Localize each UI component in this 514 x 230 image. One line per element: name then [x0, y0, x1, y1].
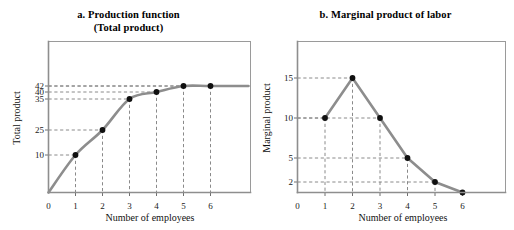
x-tick-label: 2: [350, 201, 355, 211]
y-tick-label: 42: [35, 81, 44, 91]
y-axis-title-b: Marginal product: [261, 83, 272, 153]
tick-marks-b: [294, 78, 463, 196]
y-tick-label: 15: [284, 73, 294, 83]
y-tick-labels-b: 251015: [284, 73, 294, 187]
x-tick-label: 0: [46, 201, 51, 211]
data-point-marker: [127, 96, 133, 102]
y-tick-label: 5: [289, 153, 294, 163]
data-point-marker: [154, 89, 160, 95]
tick-marks-a: [45, 86, 211, 196]
x-tick-label: 3: [378, 201, 383, 211]
chart-panel-production-function: a. Production function (Total product) 1…: [0, 0, 257, 230]
data-point-marker: [181, 83, 187, 89]
data-point-marker: [405, 155, 411, 161]
data-point-marker: [432, 179, 438, 185]
x-tick-label: 1: [73, 201, 78, 211]
guide-lines-b: [298, 78, 436, 193]
marginal-product-curve: [325, 78, 463, 193]
y-tick-label: 10: [284, 113, 294, 123]
x-tick-label: 4: [154, 201, 159, 211]
marginal-product-plot: 251015 0123456 Number of employees Margi…: [257, 0, 514, 230]
x-tick-labels-b: 0123456: [295, 201, 465, 211]
chart-panel-marginal-product: b. Marginal product of labor 251015 0123…: [257, 0, 514, 230]
x-tick-label: 4: [405, 201, 410, 211]
x-tick-label: 5: [181, 201, 186, 211]
x-tick-label: 0: [295, 201, 300, 211]
y-tick-labels-a: 1025354042: [35, 81, 45, 160]
guide-lines-a: [49, 86, 211, 193]
x-tick-label: 3: [127, 201, 132, 211]
y-axis-title-a: Total product: [11, 91, 22, 145]
data-point-marker: [208, 83, 214, 89]
y-tick-label: 25: [35, 125, 45, 135]
x-tick-label: 5: [433, 201, 438, 211]
total-product-curve: [49, 86, 249, 193]
x-axis-title-b: Number of employees: [359, 212, 448, 223]
x-tick-label: 6: [208, 201, 213, 211]
data-point-marker: [350, 75, 356, 81]
y-tick-label: 2: [289, 177, 294, 187]
data-point-marker: [377, 115, 383, 121]
x-tick-label: 6: [460, 201, 465, 211]
x-tick-labels-a: 0123456: [46, 201, 213, 211]
y-tick-label: 10: [35, 150, 45, 160]
plot-frame-a: [49, 42, 251, 193]
x-tick-label: 1: [323, 201, 328, 211]
data-point-marker: [100, 127, 106, 133]
production-function-plot: 1025354042 0123456 Number of employees T…: [0, 0, 257, 230]
x-axis-title-a: Number of employees: [106, 212, 195, 223]
plot-frame-b: [298, 42, 506, 193]
data-point-marker: [322, 115, 328, 121]
x-tick-label: 2: [100, 201, 105, 211]
data-point-marker: [73, 152, 79, 158]
